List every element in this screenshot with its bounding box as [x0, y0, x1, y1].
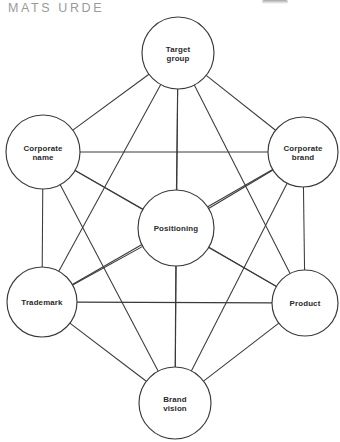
node-label-trademark: Trademark [21, 298, 63, 307]
node-corporate-brand[interactable]: Corporatebrand [268, 117, 338, 187]
edge-corporate-name-to-trademark [42, 189, 43, 267]
node-positioning[interactable]: Positioning [138, 190, 214, 266]
node-layer: TargetgroupCorporatenameCorporatebrandPo… [6, 17, 338, 439]
node-label-target-group: Target [166, 45, 191, 54]
node-label-target-group-line2: group [166, 54, 189, 63]
edge-trademark-to-product [77, 302, 272, 303]
node-label-corporate-brand-line2: brand [292, 153, 315, 162]
edge-positioning-to-product [209, 247, 277, 286]
edge-product-to-brand-vision [204, 323, 279, 381]
node-label-positioning: Positioning [154, 224, 199, 233]
diagram-canvas: MATS URDE TargetgroupCorporatenameCorpor… [0, 0, 340, 442]
edge-positioning-to-brand-vision [175, 266, 176, 367]
node-label-brand-vision-line2: vision [163, 404, 187, 413]
edge-trademark-to-brand-vision [70, 323, 146, 381]
node-label-corporate-name: Corporate [23, 144, 63, 153]
edge-corporate-brand-to-product [303, 187, 304, 270]
node-label-corporate-name-line2: name [32, 153, 54, 162]
node-label-corporate-brand: Corporate [283, 144, 323, 153]
edge-positioning-to-trademark [73, 246, 143, 285]
network-graph: TargetgroupCorporatenameCorporatebrandPo… [0, 0, 340, 442]
node-label-product: Product [290, 299, 321, 308]
node-trademark[interactable]: Trademark [7, 267, 77, 337]
node-corporate-name[interactable]: Corporatename [6, 115, 80, 189]
node-brand-vision[interactable]: Brandvision [139, 367, 211, 439]
edge-target-group-to-corporate-name [73, 74, 149, 130]
node-label-brand-vision: Brand [163, 395, 187, 404]
node-target-group[interactable]: Targetgroup [142, 17, 214, 89]
node-product[interactable]: Product [272, 270, 338, 336]
edge-target-group-to-corporate-brand [206, 75, 275, 130]
